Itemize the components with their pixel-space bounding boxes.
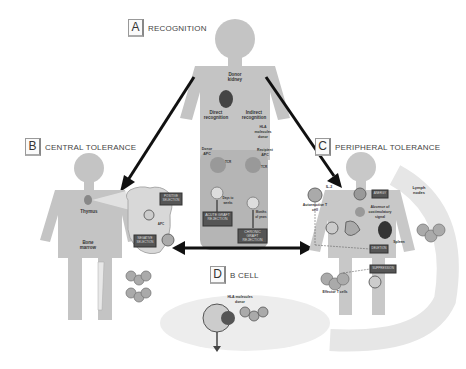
diagram-graphics <box>0 0 466 369</box>
arrow-to-central <box>128 77 194 180</box>
lymph-nodes-label: Lymph nodes <box>408 185 430 195</box>
arrow-to-peripheral <box>266 77 334 176</box>
recipient-apc-label: Recipient APC <box>257 148 273 158</box>
il2-label: IL-2 <box>323 185 335 190</box>
bone-marrow-label: Bone marrow <box>76 240 100 250</box>
autoreactive-tcell-icon <box>308 188 322 202</box>
tcell-icon <box>247 197 259 209</box>
panel-label-peripheral: C PERIPHERAL TOLERANCE <box>315 138 440 156</box>
donor-apc-label: Donor APC <box>200 147 214 157</box>
spleen-label: Spleen <box>392 240 406 245</box>
panel-title-peripheral: PERIPHERAL TOLERANCE <box>335 143 440 152</box>
negative-selection-label: NEGATIVE SELECTION <box>134 236 156 244</box>
tcell-cluster <box>126 271 151 302</box>
anergy-label: ANERGY <box>372 191 388 196</box>
deletion-label: DELETION <box>370 246 388 251</box>
apc-label: APC <box>156 222 166 227</box>
spleen-icon <box>378 221 392 239</box>
positive-selection-label: POSITIVE SELECTION <box>160 194 182 202</box>
tcr-label-1: TCR <box>223 160 233 165</box>
chronic-rejection-label: CHRONIC GRAFT REJECTION <box>238 230 267 242</box>
indirect-recognition-label: Indirect recognition <box>238 110 270 120</box>
panel-letter-d: D <box>210 266 226 284</box>
effector-tcells-label: Effector T cells <box>320 290 350 295</box>
panel-label-bcell: D B CELL <box>210 266 259 284</box>
donor-kidney-label: Donor kidney <box>222 72 248 82</box>
autoreactive-tcell-label: Autoreactive T cell <box>300 203 330 213</box>
panel-letter-c: C <box>315 138 331 156</box>
tcr-label-2: TCR <box>259 165 269 170</box>
hla-donor-label: HLA molecules donor <box>252 125 274 140</box>
panel-letter-a: A <box>128 19 144 37</box>
bcell-hla-donor-label: HLA molecules donor <box>225 295 255 305</box>
absence-costimulatory-label: Absence of costimulatory signal <box>364 205 396 220</box>
panel-letter-b: B <box>25 138 41 156</box>
panel-title-central: CENTRAL TOLERANCE <box>45 143 136 152</box>
thymus-icon <box>84 195 92 205</box>
panel-label-recognition: A RECOGNITION <box>128 19 207 37</box>
suppression-label: SUPPRESSION <box>370 266 396 271</box>
days-to-weeks-label: Days to weeks <box>221 196 235 206</box>
kidney-icon <box>219 90 233 108</box>
panel-title-bcell: B CELL <box>230 271 259 280</box>
months-years-label: Months of years <box>255 210 267 220</box>
direct-recognition-label: Direct recognition <box>200 110 232 120</box>
panel-label-central: B CENTRAL TOLERANCE <box>25 138 136 156</box>
thymus-label: Thymus <box>78 209 100 214</box>
panel-title-recognition: RECOGNITION <box>148 24 207 33</box>
acute-rejection-label: ACUTE GRAFT REJECTION <box>203 213 232 221</box>
